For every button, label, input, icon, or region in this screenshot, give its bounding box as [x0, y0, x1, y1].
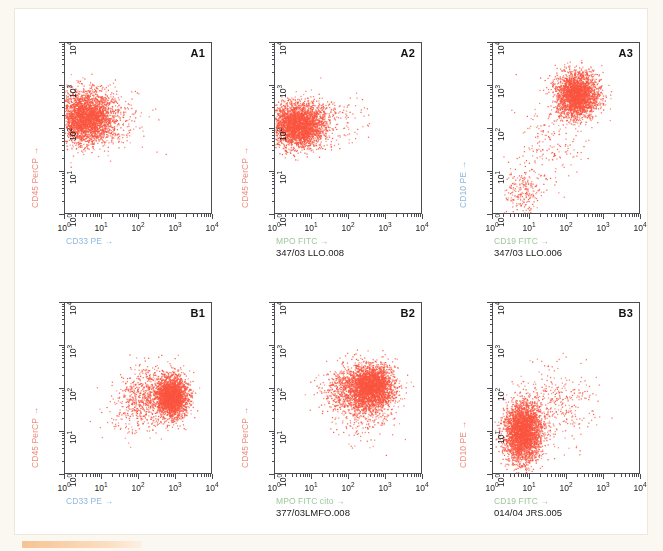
y-tick: [59, 302, 64, 303]
x-tick: [634, 214, 635, 217]
x-tick-label: 104: [633, 221, 646, 233]
plot-frame-a3: A3: [492, 42, 640, 214]
y-tick: [490, 44, 493, 45]
x-tick-label: 101: [94, 221, 107, 233]
y-tick: [62, 392, 65, 393]
x-tick: [566, 214, 567, 219]
y-tick: [490, 444, 493, 445]
y-tick: [62, 444, 65, 445]
y-tick: [272, 367, 275, 368]
y-tick: [62, 319, 65, 320]
y-tick-label: 102: [276, 388, 288, 404]
x-tick: [130, 474, 131, 477]
x-tick: [636, 474, 637, 477]
y-tick: [490, 89, 493, 90]
x-tick: [529, 474, 530, 479]
x-tick: [333, 474, 334, 477]
x-tick: [510, 214, 511, 217]
x-tick-label: 103: [378, 481, 391, 493]
x-tick: [193, 214, 194, 217]
y-tick: [487, 431, 492, 432]
x-tick: [344, 214, 345, 217]
y-tick: [490, 405, 493, 406]
y-tick: [272, 405, 275, 406]
y-tick: [272, 145, 275, 146]
y-tick: [487, 128, 492, 129]
x-tick: [603, 474, 604, 479]
y-tick: [62, 448, 65, 449]
x-tick: [201, 474, 202, 477]
x-tick: [562, 474, 563, 477]
x-tick: [97, 214, 98, 217]
x-tick: [414, 474, 415, 477]
y-tick: [62, 201, 65, 202]
y-tick: [490, 319, 493, 320]
x-tick: [208, 214, 209, 217]
y-tick: [272, 184, 275, 185]
y-tick: [272, 347, 275, 348]
y-tick: [487, 85, 492, 86]
x-tick: [307, 474, 308, 477]
x-tick: [416, 474, 417, 477]
y-tick: [272, 444, 275, 445]
y-tick: [272, 438, 275, 439]
x-tick: [381, 214, 382, 217]
y-tick: [490, 438, 493, 439]
y-tick: [490, 138, 493, 139]
scatter-plot-a2: A2100101102103104100101102103104MPO FITC…: [228, 30, 433, 270]
x-axis-title-a2: MPO FITC →: [276, 236, 328, 246]
y-tick-label: 101: [494, 431, 506, 447]
x-tick: [212, 474, 213, 479]
y-tick: [487, 214, 492, 215]
y-tick: [272, 95, 275, 96]
y-tick-label: 103: [494, 345, 506, 361]
x-tick: [337, 474, 338, 477]
scatter-plot-b3: B3100101102103104100101102103104CD19 FIT…: [446, 290, 651, 530]
y-tick: [62, 141, 65, 142]
x-tick: [101, 474, 102, 479]
y-tick: [272, 64, 275, 65]
x-tick: [167, 214, 168, 217]
y-tick-label: 104: [276, 302, 288, 318]
y-tick: [62, 150, 65, 151]
sample-caption-a2: 347/03 LLO.008: [276, 247, 344, 258]
y-tick: [272, 46, 275, 47]
y-tick: [490, 132, 493, 133]
x-tick-label: 101: [304, 481, 317, 493]
y-tick: [59, 345, 64, 346]
y-tick: [272, 138, 275, 139]
x-tick: [212, 214, 213, 219]
scatter-plot-grid: A1100101102103104100101102103104CD33 PE …: [0, 0, 663, 551]
y-tick: [62, 98, 65, 99]
y-tick: [272, 390, 275, 391]
x-tick: [93, 474, 94, 477]
x-tick: [175, 214, 176, 219]
y-tick: [62, 173, 65, 174]
x-tick: [385, 214, 386, 219]
y-tick-label: 100: [276, 474, 288, 490]
x-tick: [160, 214, 161, 217]
sample-caption-a3: 347/03 LLO.006: [494, 247, 562, 258]
x-tick: [138, 474, 139, 479]
y-tick: [62, 46, 65, 47]
panel-label-a3: A3: [619, 47, 633, 59]
y-tick: [272, 375, 275, 376]
x-tick-label: 102: [559, 481, 572, 493]
y-tick: [490, 352, 493, 353]
x-tick: [558, 214, 559, 217]
x-tick: [329, 214, 330, 217]
x-tick: [64, 474, 65, 479]
y-tick: [490, 435, 493, 436]
y-tick: [62, 304, 65, 305]
x-tick: [523, 474, 524, 477]
x-tick: [492, 214, 493, 219]
y-tick: [62, 358, 65, 359]
y-tick: [62, 410, 65, 411]
x-tick: [422, 214, 423, 219]
y-tick: [59, 171, 64, 172]
x-tick: [93, 214, 94, 217]
x-axis-title-b1: CD33 PE →: [66, 496, 113, 506]
x-tick: [422, 474, 423, 479]
x-tick: [344, 474, 345, 477]
y-tick: [62, 87, 65, 88]
